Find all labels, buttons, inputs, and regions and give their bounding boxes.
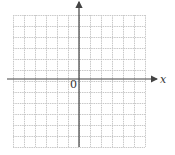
origin-label: 0 bbox=[70, 78, 77, 91]
x-axis-label: x bbox=[160, 73, 167, 86]
coordinate-plane: x 0 bbox=[0, 0, 175, 155]
